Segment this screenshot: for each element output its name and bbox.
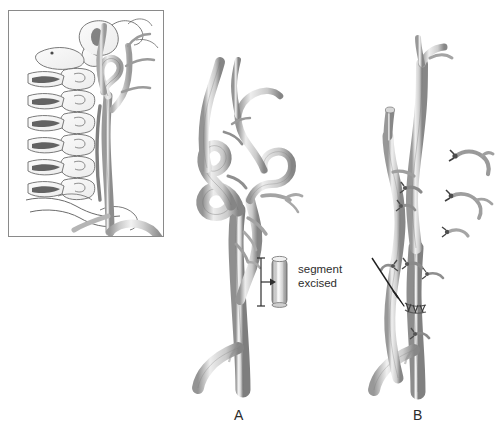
panel-a-label: A bbox=[234, 407, 244, 423]
panel-b-internal-carotid-straightened bbox=[412, 38, 452, 248]
panel-b-straightened-carotid bbox=[0, 0, 497, 448]
segment-excised-line-1: segment bbox=[298, 262, 342, 276]
segment-excised-label: segment excised bbox=[298, 262, 342, 290]
segment-excised-line-2: excised bbox=[298, 276, 342, 290]
detached-branch-stumps bbox=[442, 150, 493, 237]
panel-b-label: B bbox=[413, 407, 423, 423]
medical-illustration-figure: segment excised A B bbox=[0, 0, 497, 448]
